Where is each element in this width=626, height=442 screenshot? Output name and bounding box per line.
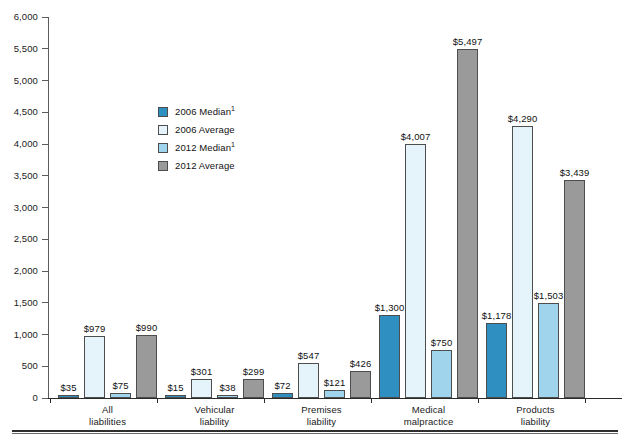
group-separator-tick: [478, 398, 479, 403]
bar-group: $1,300$4,007$750$5,497: [375, 17, 482, 398]
bar-value-label: $1,178: [482, 310, 512, 322]
group-separator-tick: [585, 398, 586, 403]
category-label-3: Premisesliability: [262, 404, 382, 427]
y-axis-tick: 2,000: [0, 265, 48, 277]
bottom-rule: [12, 430, 618, 432]
bar-value-label: $3,439: [560, 167, 590, 179]
legend-label: 2006 Median1: [175, 106, 235, 118]
y-axis-tick-label: 3,000: [14, 202, 38, 214]
bar-value-label: $15: [167, 382, 183, 394]
y-axis-tick: 4,500: [0, 106, 48, 118]
chart-legend: 2006 Median12006 Average2012 Median12012…: [158, 104, 235, 176]
bar-value-label: $4,290: [508, 113, 538, 125]
bar: $4,007: [405, 144, 426, 398]
legend-footnote-marker: 1: [231, 105, 235, 112]
y-axis-tick: 3,500: [0, 170, 48, 182]
category-label-line: Vehicular: [155, 404, 275, 416]
category-label-line: liabilities: [48, 416, 168, 428]
y-axis-tick: 5,000: [0, 75, 48, 87]
bar-group: $1,178$4,290$1,503$3,439: [482, 17, 589, 398]
category-label-5: Productsliability: [476, 404, 596, 427]
bar: $301: [191, 379, 212, 398]
bar-value-label: $299: [243, 366, 265, 378]
bar: $990: [136, 335, 157, 398]
bar-value-label: $1,503: [534, 290, 564, 302]
bar: $1,300: [379, 315, 400, 398]
bar-value-label: $75: [112, 380, 128, 392]
y-axis-tick-label: 5,000: [14, 75, 38, 87]
y-axis-tick: 5,500: [0, 43, 48, 55]
legend-swatch-icon: [158, 107, 168, 117]
bar-value-label: $35: [60, 382, 76, 394]
bar: $979: [84, 336, 105, 398]
bar-value-label: $38: [219, 382, 235, 394]
group-separator-tick: [157, 398, 158, 403]
legend-label: 2012 Average: [175, 160, 235, 172]
category-label-line: liability: [155, 416, 275, 428]
bar-value-label: $1,300: [375, 302, 405, 314]
y-axis-tick-label: 4,000: [14, 138, 38, 150]
group-separator-tick: [264, 398, 265, 403]
category-label-4: Medicalmalpractice: [369, 404, 489, 427]
legend-item[interactable]: 2012 Median1: [158, 140, 235, 156]
category-label-line: liability: [262, 416, 382, 428]
bar: $1,503: [538, 303, 559, 398]
y-axis-tick: 2,500: [0, 233, 48, 245]
bottom-rule-thin: [12, 433, 618, 434]
legend-item[interactable]: 2006 Median1: [158, 104, 235, 120]
bar: $750: [431, 350, 452, 398]
bar-group: $72$547$121$426: [268, 17, 375, 398]
bar-value-label: $547: [298, 350, 320, 362]
category-label-2: Vehicularliability: [155, 404, 275, 427]
bar-value-label: $990: [136, 322, 158, 334]
x-axis-baseline: [48, 398, 622, 399]
y-axis-tick-label: 500: [22, 360, 38, 372]
bar: $121: [324, 390, 345, 398]
bar-value-label: $72: [274, 380, 290, 392]
bar-value-label: $979: [84, 323, 106, 335]
bar-group: $15$301$38$299: [161, 17, 268, 398]
bar-group: $35$979$75$990: [54, 17, 161, 398]
bar: $426: [350, 371, 371, 398]
bar-value-label: $301: [191, 366, 213, 378]
y-axis-tick: 4,000: [0, 138, 48, 150]
group-separator-tick: [371, 398, 372, 403]
bar: $547: [298, 363, 319, 398]
category-label-line: liability: [476, 416, 596, 428]
y-axis-tick-label: 3,500: [14, 170, 38, 182]
category-label-line: malpractice: [369, 416, 489, 428]
category-label-line: Premises: [262, 404, 382, 416]
y-axis-tick-label: 1,000: [14, 329, 38, 341]
category-label-line: All: [48, 404, 168, 416]
bar: $3,439: [564, 180, 585, 398]
category-label-1: Allliabilities: [48, 404, 168, 427]
y-axis-tick: 6,000: [0, 11, 48, 23]
legend-swatch-icon: [158, 161, 168, 171]
y-axis-tick-label: 2,000: [14, 265, 38, 277]
plot-area: $35$979$75$990$15$301$38$299$72$547$121$…: [48, 17, 622, 398]
y-axis-tick: 500: [0, 360, 48, 372]
y-axis-tick-label: 5,500: [14, 43, 38, 55]
legend-swatch-icon: [158, 143, 168, 153]
bar-value-label: $426: [350, 358, 372, 370]
bar-value-label: $4,007: [401, 131, 431, 143]
bar: $1,178: [486, 323, 507, 398]
legend-item[interactable]: 2006 Average: [158, 122, 235, 138]
y-axis-tick: 1,000: [0, 329, 48, 341]
bar-value-label: $121: [324, 377, 346, 389]
y-axis-tick-label: 2,500: [14, 233, 38, 245]
bar-chart: 05001,0001,5002,0002,5003,0003,5004,0004…: [0, 0, 626, 442]
category-label-line: Products: [476, 404, 596, 416]
y-axis-tick: 1,500: [0, 297, 48, 309]
bar: $299: [243, 379, 264, 398]
y-axis-tick-label: 4,500: [14, 106, 38, 118]
bar-value-label: $5,497: [453, 36, 483, 48]
category-label-line: Medical: [369, 404, 489, 416]
legend-item[interactable]: 2012 Average: [158, 158, 235, 174]
legend-footnote-marker: 1: [231, 141, 235, 148]
legend-swatch-icon: [158, 125, 168, 135]
bar: $5,497: [457, 49, 478, 398]
bar: $4,290: [512, 126, 533, 398]
y-axis-tick-label: 6,000: [14, 11, 38, 23]
legend-label: 2012 Median1: [175, 142, 235, 154]
